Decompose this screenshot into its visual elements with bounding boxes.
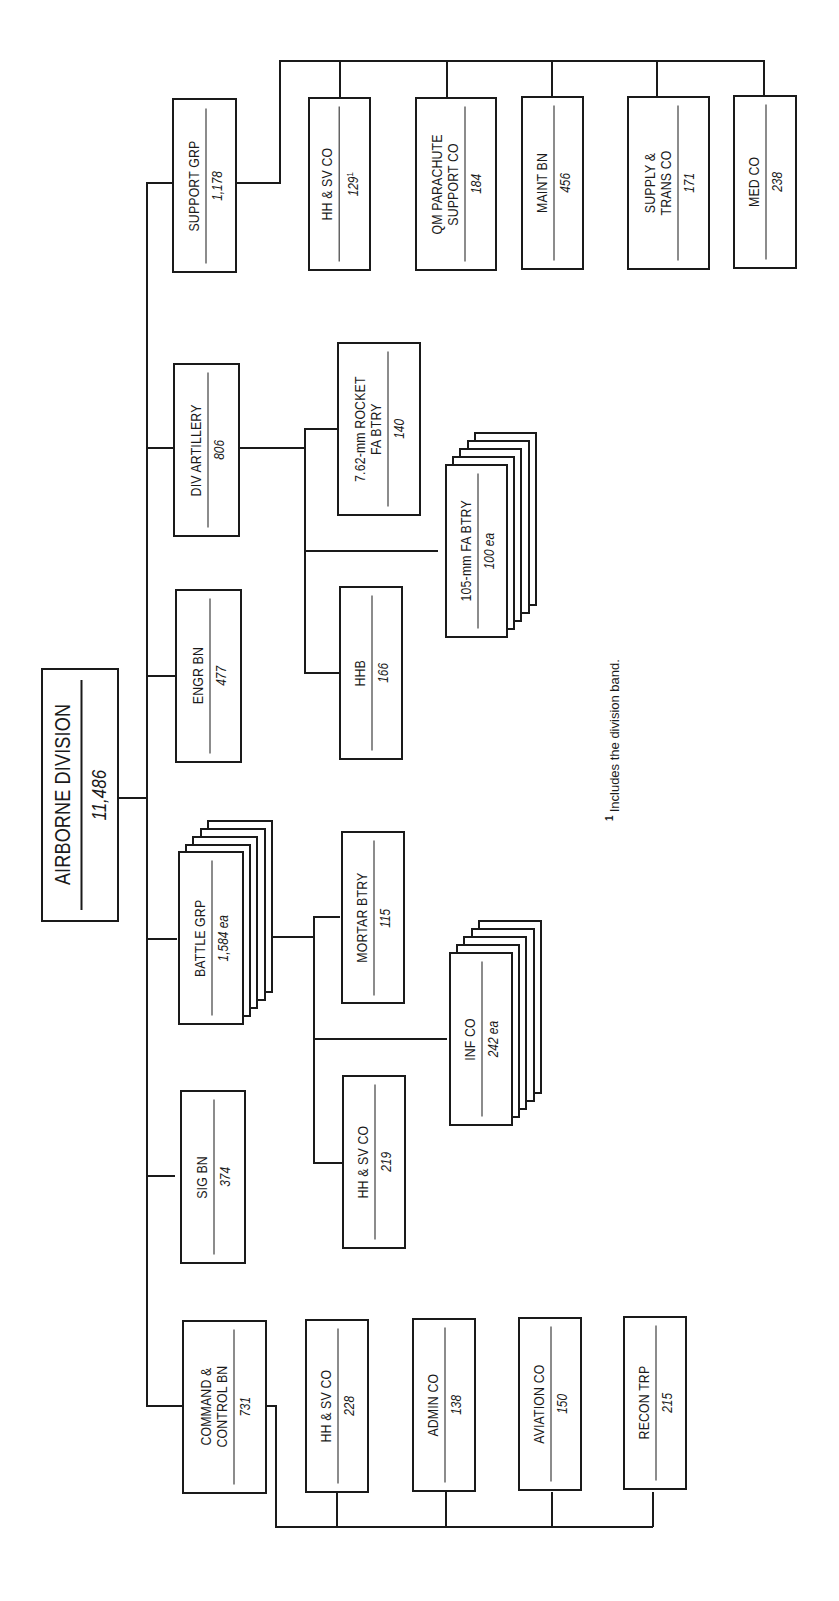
- unit-strength: 115: [378, 908, 393, 927]
- unit-strength: 100 ea: [481, 533, 496, 569]
- divider: [445, 1328, 446, 1483]
- unit-name: MED CO: [746, 157, 762, 207]
- divider: [677, 106, 678, 261]
- unit-box-recon-trp: RECON TRP 215: [623, 1316, 687, 1490]
- divider: [465, 107, 466, 262]
- unit-strength: 1,178: [209, 171, 224, 201]
- connector: [446, 60, 448, 98]
- connector: [146, 938, 177, 940]
- divider: [205, 108, 206, 263]
- unit-strength: 166: [376, 663, 391, 683]
- unit-box-hh-sv-co-command: HH & SV CO 228: [305, 1319, 369, 1493]
- divider: [482, 962, 483, 1117]
- connector: [304, 428, 338, 430]
- divider: [388, 352, 389, 507]
- divider: [766, 105, 767, 260]
- unit-box-battle-grp: BATTLE GRP 1,584 ea: [178, 851, 244, 1025]
- divider: [214, 1100, 215, 1255]
- support-bus-line: [279, 60, 765, 62]
- unit-name: ENGR BN: [189, 647, 205, 704]
- unit-box-inf-co: INF CO 242 ea: [449, 952, 513, 1126]
- unit-name: MAINT BN: [533, 153, 549, 213]
- unit-name: COMMAND & CONTROL BN: [197, 1366, 229, 1448]
- unit-strength: 731: [237, 1397, 252, 1417]
- connector: [236, 182, 280, 184]
- unit-strength: 456: [557, 173, 572, 193]
- unit-box-hh-sv-co-battle: HH & SV CO 219: [342, 1075, 406, 1249]
- unit-strength: 477: [213, 666, 228, 686]
- unit-name: HH & SV CO: [318, 1370, 334, 1443]
- divider: [551, 1327, 552, 1482]
- command-bus-line: [275, 1526, 653, 1528]
- unit-name: AVIATION CO: [531, 1364, 547, 1443]
- divider: [553, 106, 554, 261]
- unit-box-mortar-btry: MORTAR BTRY 115: [341, 831, 405, 1004]
- unit-box-105mm-fa-btry: 105-mm FA BTRY 100 ea: [445, 464, 508, 638]
- unit-strength: 1291: [342, 172, 361, 196]
- unit-strength: 1,584 ea: [216, 915, 231, 961]
- unit-strength: 228: [342, 1396, 357, 1416]
- unit-name: HH & SV CO: [318, 148, 334, 221]
- connector: [313, 916, 340, 918]
- unit-box-airborne-division: AIRBORNE DIVISION 11,486: [41, 668, 119, 922]
- unit-box-support-grp: SUPPORT GRP 1,178: [172, 98, 237, 273]
- unit-box-sig-bn: SIG BN 374: [180, 1090, 246, 1264]
- connector: [146, 1405, 182, 1407]
- unit-box-med-co: MED CO 238: [733, 95, 797, 269]
- unit-strength: 238: [770, 172, 785, 192]
- divider: [375, 1085, 376, 1240]
- connector: [119, 797, 147, 799]
- connector: [146, 1175, 175, 1177]
- unit-name: AIRBORNE DIVISION: [51, 704, 75, 885]
- unit-box-admin-co: ADMIN CO 138: [412, 1318, 476, 1492]
- connector: [313, 1038, 447, 1040]
- divider: [212, 861, 213, 1016]
- unit-strength: 171: [681, 173, 696, 193]
- connector: [551, 1492, 553, 1527]
- unit-strength: 138: [449, 1395, 464, 1415]
- unit-name: QM PARACHUTE SUPPORT CO: [429, 134, 461, 234]
- unit-name: 105-mm FA BTRY: [457, 500, 473, 601]
- unit-strength: 242 ea: [486, 1021, 501, 1057]
- unit-strength: 11,486: [88, 770, 110, 821]
- unit-name: BATTLE GRP: [192, 899, 208, 976]
- unit-name: SUPPLY & TRANS CO: [641, 151, 673, 216]
- connector: [336, 1492, 338, 1527]
- divider: [338, 1329, 339, 1484]
- connector: [313, 1162, 342, 1164]
- unit-box-command-control-bn: COMMAND & CONTROL BN 731: [182, 1320, 267, 1494]
- unit-name: 7.62-mm ROCKET FA BTRY: [352, 376, 384, 481]
- unit-box-div-artillery: DIV ARTILLERY 806: [173, 363, 240, 537]
- unit-name: ADMIN CO: [425, 1374, 441, 1437]
- connector: [445, 1492, 447, 1527]
- connector: [146, 675, 175, 677]
- divider: [374, 840, 375, 995]
- unit-box-qm-parachute-support-co: QM PARACHUTE SUPPORT CO 184: [415, 97, 497, 271]
- connector: [763, 60, 765, 98]
- unit-name: HH & SV CO: [355, 1126, 371, 1199]
- main-trunk-line: [146, 182, 148, 1406]
- unit-box-rocket-fa-btry: 7.62-mm ROCKET FA BTRY 140: [337, 342, 421, 516]
- connector: [146, 447, 173, 449]
- connector: [313, 916, 315, 1164]
- connector: [339, 60, 341, 98]
- connector: [304, 672, 340, 674]
- unit-name: DIV ARTILLERY: [187, 404, 203, 496]
- divider: [81, 680, 83, 910]
- unit-strength: 806: [211, 440, 226, 460]
- unit-strength: 150: [555, 1394, 570, 1414]
- unit-strength: 184: [469, 174, 484, 194]
- divider: [233, 1330, 234, 1485]
- divider: [209, 599, 210, 754]
- connector: [304, 550, 438, 552]
- unit-box-aviation-co: AVIATION CO 150: [518, 1317, 582, 1491]
- unit-name: MORTAR BTRY: [354, 873, 370, 963]
- connector: [656, 60, 658, 98]
- unit-box-hh-sv-co-support: HH & SV CO 1291: [308, 97, 371, 271]
- connector: [273, 936, 313, 938]
- divider: [372, 596, 373, 751]
- connector: [279, 60, 281, 184]
- footnote-marker: 1: [604, 815, 615, 821]
- footnote: 1Includes the division band.: [604, 659, 621, 821]
- footnote-text: Includes the division band.: [607, 659, 622, 812]
